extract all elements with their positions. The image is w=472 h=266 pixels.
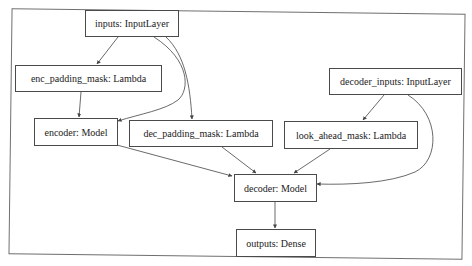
edge-look-ahead-mask-decoder [294,149,330,173]
node-decoder-inputs: decoder_inputs: InputLayer [329,68,462,95]
edge-inputs-enc-padding-mask [97,37,118,64]
node-label: decoder_inputs: InputLayer [340,76,451,87]
node-label: outputs: Dense [246,238,306,249]
edge-decoder-inputs-look-ahead-mask [363,95,384,120]
edge-enc-padding-mask-encoder [79,92,81,117]
node-dec-padding-mask: dec_padding_mask: Lambda [129,120,273,147]
node-label: encoder: Model [44,127,107,138]
node-look-ahead-mask: look_ahead_mask: Lambda [284,121,418,149]
node-inputs: inputs: InputLayer [85,10,179,37]
node-decoder: decoder: Model [234,174,317,202]
node-label: look_ahead_mask: Lambda [296,130,406,141]
node-label: dec_padding_mask: Lambda [143,128,258,139]
node-outputs: outputs: Dense [236,229,316,257]
edge-dec-padding-mask-decoder [222,147,256,173]
diagram-canvas: inputs: InputLayer enc_padding_mask: Lam… [0,0,472,266]
edge-encoder-decoder [117,145,232,176]
node-label: decoder: Model [244,183,307,194]
node-label: inputs: InputLayer [95,18,169,29]
node-enc-padding-mask: enc_padding_mask: Lambda [15,65,162,92]
node-label: enc_padding_mask: Lambda [31,73,146,84]
node-encoder: encoder: Model [34,118,118,146]
